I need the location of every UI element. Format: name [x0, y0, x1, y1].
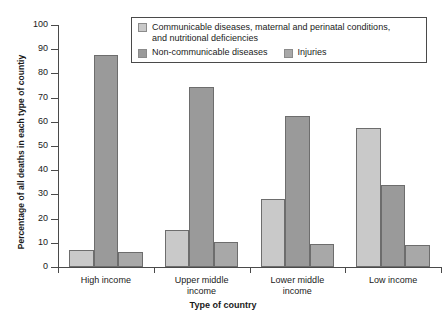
legend-label-communicable-line2: and nutritional deficiencies: [152, 33, 258, 43]
bar: [285, 116, 310, 267]
x-group-label-line: income: [187, 286, 216, 296]
y-tick-label: 70: [38, 91, 48, 104]
y-tick-label: 50: [38, 139, 48, 152]
y-tick: 30: [51, 194, 58, 195]
chart-legend: Communicable diseases, maternal and peri…: [131, 17, 427, 63]
y-tick-label: 20: [38, 212, 48, 225]
x-tick: [58, 267, 59, 273]
bar: [189, 87, 214, 267]
bar: [214, 242, 239, 267]
bar: [356, 128, 381, 267]
legend-label-noncommunicable: Non-communicable diseases: [152, 47, 268, 58]
y-tick-label: 60: [38, 115, 48, 128]
y-tick: 90: [51, 49, 58, 50]
y-tick-label: 90: [38, 42, 48, 55]
bar: [69, 250, 94, 267]
x-group-label-line: income: [283, 286, 312, 296]
y-tick-label: 0: [43, 260, 48, 273]
bar: [94, 55, 119, 267]
x-group-label: Upper middleincome: [154, 275, 250, 297]
x-group-label-line: Lower middle: [271, 275, 325, 285]
legend-row-secondary: Non-communicable diseases Injuries: [138, 47, 421, 58]
y-tick-label: 40: [38, 163, 48, 176]
y-tick: 60: [51, 122, 58, 123]
bar: [118, 252, 143, 267]
y-tick-label: 30: [38, 187, 48, 200]
y-tick: 40: [51, 170, 58, 171]
legend-swatch-noncommunicable: [138, 49, 147, 58]
x-group-label-line: Upper middle: [175, 275, 229, 285]
y-axis-title: Percentage of all deaths in each type of…: [14, 17, 28, 287]
y-tick: 50: [51, 146, 58, 147]
x-tick: [154, 267, 155, 273]
legend-swatch-injuries: [284, 49, 293, 58]
bar: [405, 245, 430, 267]
x-tick: [250, 267, 251, 273]
bar: [310, 244, 335, 267]
x-axis-title: Type of country: [0, 300, 446, 310]
bar: [381, 185, 406, 267]
x-tick: [345, 267, 346, 273]
bar: [165, 230, 190, 268]
y-tick-label: 10: [38, 236, 48, 249]
y-tick: 10: [51, 243, 58, 244]
y-tick-label: 80: [38, 66, 48, 79]
legend-label-communicable: Communicable diseases, maternal and peri…: [152, 22, 390, 44]
y-tick: 70: [51, 98, 58, 99]
y-tick-label: 100: [33, 18, 48, 31]
x-group-label: Lower middleincome: [250, 275, 346, 297]
y-tick: 0: [51, 267, 58, 268]
x-group-label: High income: [58, 275, 154, 286]
x-group-label: Low income: [345, 275, 441, 286]
bar: [261, 199, 286, 267]
y-tick: 80: [51, 73, 58, 74]
y-tick: 100: [51, 25, 58, 26]
top-cropped-text: [0, 0, 446, 6]
legend-label-communicable-line1: Communicable diseases, maternal and peri…: [152, 22, 390, 32]
y-axis-line: [58, 25, 59, 267]
y-tick: 20: [51, 219, 58, 220]
bar-chart: Percentage of all deaths in each type of…: [0, 0, 446, 325]
legend-item-communicable: Communicable diseases, maternal and peri…: [138, 22, 421, 44]
legend-label-injuries: Injuries: [298, 47, 327, 58]
x-tick: [441, 267, 442, 273]
legend-swatch-communicable: [138, 23, 147, 32]
